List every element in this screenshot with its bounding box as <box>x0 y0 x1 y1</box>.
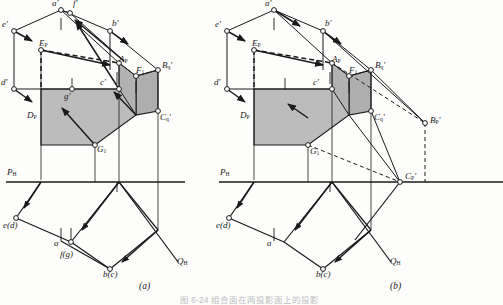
label-a-E-P: EP <box>39 39 48 49</box>
label-b-b-c: b(c) <box>316 270 331 279</box>
label-b-F-1: F1 <box>349 66 357 76</box>
label-a-d-prime: d' <box>1 78 7 87</box>
shaded-face-right-a <box>136 70 158 115</box>
label-a-Q-H: QH <box>177 257 188 267</box>
label-a-A-P: AP <box>119 55 128 65</box>
label-a-C-q-prime: Cq' <box>160 113 171 123</box>
label-a-b-c: b(c) <box>103 270 118 279</box>
panel-b-group <box>219 8 503 272</box>
label-a-b-prime: b' <box>112 19 118 28</box>
arrow-a-1 <box>14 31 32 41</box>
figure-canvas: a' f' b' e' EP d' c' g' DP AP F1 Bq' Cq'… <box>0 0 503 305</box>
label-a-g-prime: g' <box>64 92 70 101</box>
label-a-a-prime: a' <box>52 0 58 8</box>
arrow-b-8 <box>295 182 332 230</box>
label-b-a: a <box>267 239 272 248</box>
shaded-face-right-b <box>349 70 371 115</box>
label-a-D-P: DP <box>27 111 37 121</box>
arrow-b-4 <box>323 31 341 44</box>
label-b-P-H: PH <box>220 168 230 178</box>
hidden-edge-b <box>254 50 332 89</box>
label-b-a-prime: a' <box>265 0 271 8</box>
arrow-a-11 <box>122 230 158 262</box>
arrow-a-9 <box>24 182 41 208</box>
label-b-c-prime: c' <box>313 78 319 87</box>
panel-a-group <box>6 8 185 272</box>
label-a-f-prime: f' <box>73 0 77 8</box>
label-a-G-1: G1 <box>97 145 106 155</box>
label-a-B-q-prime: Bq' <box>162 61 172 71</box>
label-b-G-1: G1 <box>310 147 319 157</box>
label-a-c-prime: c' <box>100 78 106 87</box>
arrow-b-1 <box>227 31 245 41</box>
label-b-B-q-prime: Bq' <box>375 61 385 71</box>
arrow-b-9 <box>335 230 371 262</box>
trace-line-b-2 <box>355 182 400 240</box>
arrow-a-3 <box>110 31 128 44</box>
label-b-E-P: EP <box>252 39 261 49</box>
label-b-e-prime: e' <box>215 20 221 29</box>
label-b-D-P: DP <box>240 111 250 121</box>
label-b-d-prime: d' <box>214 78 220 87</box>
label-b-B-P-prime: BP' <box>430 116 441 126</box>
trace-line-b <box>332 182 391 262</box>
arrow-b-5 <box>227 89 245 102</box>
label-a-e-d: e(d) <box>3 221 18 230</box>
arrow-a-6 <box>14 89 32 102</box>
label-a-f-g: f(g) <box>60 250 73 259</box>
label-b-e-d: e(d) <box>216 221 231 230</box>
label-b-C-P-prime: CP' <box>405 172 416 182</box>
label-a-e-prime: e' <box>2 20 8 29</box>
figure-caption: 图 6-24 组合面在两投影面上的投影 <box>180 293 319 305</box>
label-a-a: a <box>54 239 59 248</box>
panel-label-b: (b) <box>390 281 401 291</box>
arrow-b-3 <box>274 10 300 26</box>
h-projection-b <box>229 182 371 269</box>
arrow-b-2 <box>254 50 323 65</box>
label-b-b-prime: b' <box>325 19 331 28</box>
arrow-b-7 <box>237 182 254 208</box>
panel-label-a: (a) <box>139 281 150 291</box>
label-a-P-H: PH <box>7 168 17 178</box>
label-a-F-1: F1 <box>136 66 144 76</box>
label-b-C-q-prime: Cq' <box>374 113 385 123</box>
label-b-Q-H: QH <box>390 257 401 267</box>
label-b-A-P: AP <box>332 55 341 65</box>
arrow-a-10 <box>82 182 119 230</box>
trace-line-a <box>119 182 178 262</box>
